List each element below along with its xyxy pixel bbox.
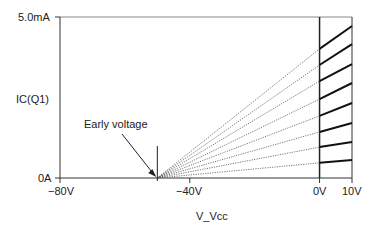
plot-frame — [55, 17, 352, 183]
y-min-label: 0A — [38, 172, 51, 184]
early-voltage-annotation — [122, 134, 157, 181]
x-tick-m80: −80V — [48, 185, 74, 197]
curve-lines — [320, 26, 352, 163]
extrapolation-lines — [157, 49, 319, 178]
x-tick-0: 0V — [313, 185, 326, 197]
x-tick-10: 10V — [342, 185, 362, 197]
annotation-label: Early voltage — [84, 118, 148, 130]
x-tick-m40: −40V — [176, 185, 202, 197]
y-max-label: 5.0mA — [18, 11, 50, 23]
x-axis-label: V_Vcc — [196, 210, 228, 222]
y-axis-label: IC(Q1) — [16, 93, 49, 105]
